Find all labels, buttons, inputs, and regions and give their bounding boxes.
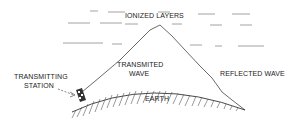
transmitted-wave-label-line1: TRANSMITED xyxy=(117,61,164,69)
ionized-layers-label: IONIZED LAYERS xyxy=(125,12,184,20)
transmitted-wave-label-line2: WAVE xyxy=(129,70,149,78)
transmitted-wave-line xyxy=(82,25,160,92)
transmitting-station-label-line2: STATION xyxy=(24,82,54,90)
reflected-wave-label: REFLECTED WAVE xyxy=(220,70,285,78)
reflected-wave-line xyxy=(160,25,245,110)
transmitting-station-label-line1: TRANSMITTING xyxy=(14,73,68,81)
station-pointer-arrow xyxy=(58,89,75,97)
earth-label: EARTH xyxy=(145,95,169,103)
